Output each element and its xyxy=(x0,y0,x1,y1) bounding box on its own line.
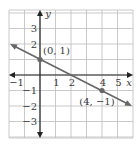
y-tick-label: 2 xyxy=(31,39,37,50)
y-tick-label: −3 xyxy=(22,116,37,127)
data-point xyxy=(99,88,104,93)
coordinate-plane: −11245x32−1−2−3y(0, 1)(4, −1) xyxy=(0,0,136,144)
x-tick-label: 1 xyxy=(53,77,59,88)
y-tick-label: −2 xyxy=(22,101,37,112)
y-tick-label: −1 xyxy=(22,85,37,96)
x-tick-label: 5 xyxy=(115,77,121,88)
x-tick-label: 4 xyxy=(100,77,106,88)
point-label: (4, −1) xyxy=(79,96,114,107)
data-point xyxy=(37,57,42,62)
point-label: (0, 1) xyxy=(43,45,70,56)
y-axis-label: y xyxy=(44,8,51,19)
y-tick-label: 3 xyxy=(31,23,37,34)
x-axis-label: x xyxy=(126,77,132,88)
x-tick-label: 2 xyxy=(69,77,75,88)
